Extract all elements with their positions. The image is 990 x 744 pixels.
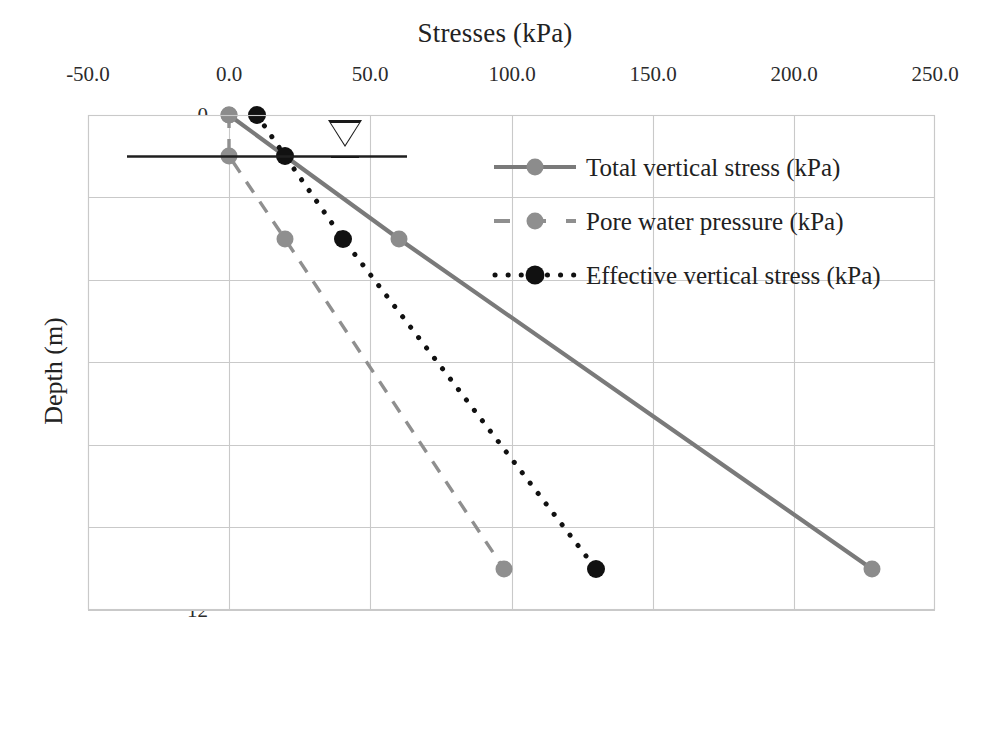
legend-item-pore-water-pressure[interactable]: Pore water pressure (kPa) bbox=[492, 194, 962, 248]
data-point bbox=[587, 560, 605, 578]
legend-label: Total vertical stress (kPa) bbox=[578, 155, 840, 180]
legend-label: Pore water pressure (kPa) bbox=[578, 209, 844, 234]
legend-marker-circle bbox=[527, 159, 544, 176]
data-point bbox=[496, 561, 513, 578]
data-point bbox=[277, 231, 294, 248]
data-point bbox=[334, 230, 352, 248]
legend: Total vertical stress (kPa) Pore water p… bbox=[492, 140, 962, 302]
water-table-underline bbox=[331, 156, 359, 158]
water-table-icon bbox=[322, 120, 368, 164]
data-point bbox=[864, 561, 881, 578]
legend-item-total-vertical-stress[interactable]: Total vertical stress (kPa) bbox=[492, 140, 962, 194]
legend-label: Effective vertical stress (kPa) bbox=[578, 263, 881, 288]
legend-swatch-solid-line bbox=[492, 154, 578, 180]
legend-item-effective-vertical-stress[interactable]: Effective vertical stress (kPa) bbox=[492, 248, 962, 302]
triangle-inner bbox=[331, 123, 359, 145]
legend-swatch-dashed-line bbox=[492, 208, 578, 234]
stress-depth-chart: Stresses (kPa) -50.0 0.0 50.0 100.0 150.… bbox=[0, 0, 990, 744]
plot-area bbox=[0, 0, 990, 744]
data-point bbox=[391, 231, 408, 248]
legend-marker-circle bbox=[527, 213, 544, 230]
legend-marker-circle bbox=[526, 266, 545, 285]
legend-swatch-dotted-line bbox=[492, 262, 578, 288]
